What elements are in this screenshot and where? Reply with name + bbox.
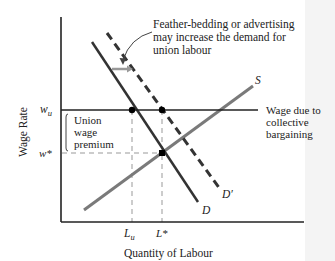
annotation-wage-line1: Wage due to — [266, 104, 321, 116]
annotation-top-line1: Feather-bedding or advertising — [153, 18, 295, 31]
x-axis-title: Quantity of Labour — [124, 247, 213, 260]
diagram-canvas: Feather-bedding or advertising may incre… — [0, 0, 335, 261]
point-lstar-wu — [159, 107, 165, 113]
annotation-wage-line2: collective — [266, 116, 309, 128]
union-wage-diagram: Feather-bedding or advertising may incre… — [0, 0, 335, 261]
point-lu-wu — [129, 107, 135, 113]
annotation-wage-line3: bargaining — [266, 128, 313, 140]
label-supply: S — [255, 74, 261, 86]
point-equilibrium — [159, 150, 165, 156]
y-axis-title: Wage Rate — [17, 107, 30, 157]
annotation-premium-line2: wage — [74, 126, 97, 138]
annotation-premium-line1: Union — [74, 114, 102, 126]
annotation-top-line3: union labour — [153, 44, 212, 56]
annotation-top-line2: may increase the demand for — [153, 31, 286, 44]
tick-lstar: L* — [155, 227, 168, 239]
annotation-premium-line3: premium — [74, 138, 114, 150]
label-demand-shifted: D′ — [221, 188, 233, 200]
label-demand: D — [201, 204, 211, 216]
tick-wstar: w* — [39, 147, 52, 159]
